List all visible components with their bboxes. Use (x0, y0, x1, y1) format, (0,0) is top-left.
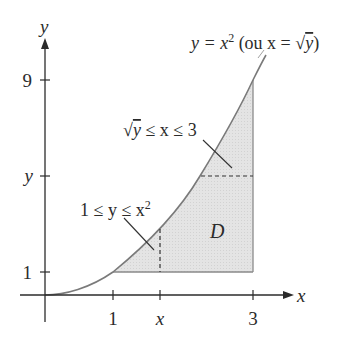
y-axis-arrow-icon (41, 38, 49, 49)
horizontal-strip-label: √y ≤ x ≤ 3 (123, 120, 197, 140)
region-label: D (209, 220, 225, 242)
x-axis-arrow-icon (283, 291, 294, 299)
x-axis-label: x (296, 285, 306, 306)
y-axis-label: y (38, 16, 49, 37)
y-tick-label-1: 1 (23, 262, 33, 283)
vertical-strip-leader (124, 218, 154, 250)
y-tick-label-y: y (23, 165, 34, 186)
x-tick-label-3: 3 (248, 308, 258, 329)
x-tick-label-x: x (155, 308, 165, 329)
y-tick-label-9: 9 (23, 70, 33, 91)
vertical-strip-label: 1 ≤ y ≤ x2 (80, 198, 151, 220)
curve-label: y = x2 (ou x = √y) (189, 31, 319, 54)
x-tick-label-1: 1 (108, 308, 118, 329)
diagram-canvas: y x 1 x 3 9 y 1 y = x2 (ou x = √y) √y ≤ … (0, 0, 349, 340)
